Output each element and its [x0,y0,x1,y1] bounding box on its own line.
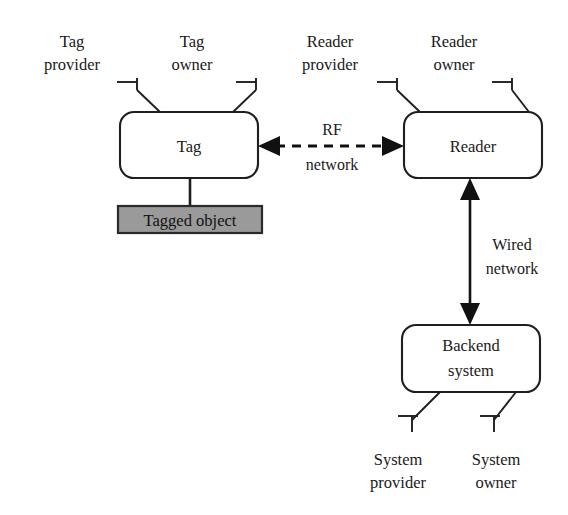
diagram-canvas: Tag provider Tag owner Reader provider R… [0,0,568,515]
label-tag-owner-line2: owner [171,55,213,74]
label-tag-owner-line1: Tag [180,32,205,51]
connector-tag-provider [117,78,160,112]
connector-reader-provider [377,78,420,112]
label-rf-network-line2: network [306,156,358,173]
edge-rf-network [258,136,404,156]
label-wired-network-line1: Wired [492,236,531,253]
rf-arrowhead-right [382,136,404,156]
label-system-owner-line2: owner [475,473,517,492]
connector-system-owner [480,392,516,432]
label-node-tagged-object: Tagged object [144,211,237,230]
label-reader-owner-line2: owner [433,55,475,74]
label-reader-provider-line2: provider [302,55,358,74]
rf-arrowhead-left [258,136,280,156]
label-tag-provider-line2: provider [44,55,100,74]
label-node-backend-line2: system [448,361,494,380]
connector-reader-owner [492,78,529,112]
label-wired-network-line2: network [486,260,538,277]
label-system-provider-line2: provider [370,473,426,492]
label-tag-provider-line1: Tag [60,32,85,51]
connector-system-provider [398,392,440,432]
label-system-owner-line1: System [472,450,521,469]
label-rf-network-line1: RF [322,121,342,138]
label-node-backend-line1: Backend [442,336,500,355]
label-reader-owner-line1: Reader [431,32,478,51]
label-reader-provider-line1: Reader [307,32,354,51]
wired-arrowhead-up [460,178,480,200]
connector-tag-owner [233,78,256,112]
label-node-reader: Reader [450,137,497,156]
edge-wired-network [460,178,480,325]
wired-arrowhead-down [460,303,480,325]
diagram-svg: Tag provider Tag owner Reader provider R… [0,0,568,515]
label-system-provider-line1: System [374,450,423,469]
label-node-tag: Tag [177,137,202,156]
